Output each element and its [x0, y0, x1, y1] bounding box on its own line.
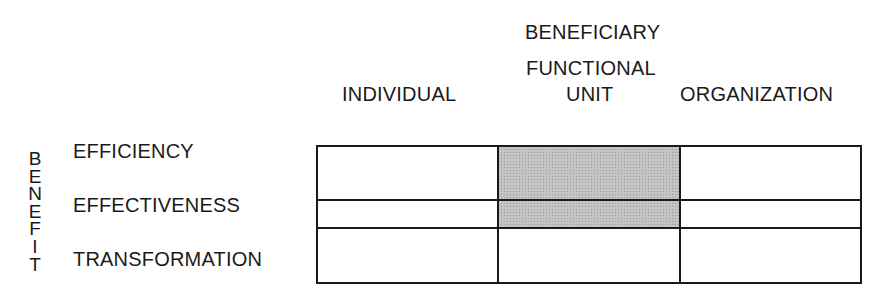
- row-group-letter: B: [24, 150, 46, 168]
- column-header-functional-unit-line1: FUNCTIONAL: [526, 58, 656, 78]
- grid-line-horizontal: [316, 227, 862, 229]
- row-group-label-benefit: B E N E F I T: [24, 150, 46, 273]
- grid-line-vertical: [679, 145, 681, 284]
- row-label-efficiency: EFFICIENCY: [73, 141, 194, 161]
- row-label-transformation: TRANSFORMATION: [73, 249, 262, 269]
- grid-line-horizontal: [316, 199, 862, 201]
- matrix-border: [316, 145, 862, 284]
- grid-line-vertical: [497, 145, 499, 284]
- column-header-individual: INDIVIDUAL: [342, 84, 456, 104]
- row-label-effectiveness: EFFECTIVENESS: [73, 195, 240, 215]
- column-group-label: BENEFICIARY: [525, 22, 660, 42]
- row-group-letter: T: [24, 256, 46, 274]
- row-group-letter: I: [24, 238, 46, 256]
- column-header-organization: ORGANIZATION: [680, 84, 833, 104]
- column-header-functional-unit-line2: UNIT: [566, 84, 613, 104]
